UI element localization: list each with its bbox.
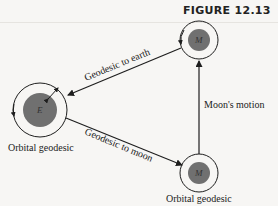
earth-caption: Orbital geodesic (8, 142, 74, 153)
moon-motion-label: Moon's motion (204, 99, 264, 110)
orbit-arrow-icon (13, 104, 14, 116)
radius-arrow-icon (48, 88, 58, 99)
diagram-canvas: E Orbital geodesic M M Orbital geodesic … (0, 0, 278, 206)
moon-bottom-body: M (180, 154, 218, 192)
moon-bottom-symbol: M (194, 168, 203, 178)
earth-body: E (13, 83, 67, 137)
figure-root: FIGURE 12.13 E Orbital geodesic M (0, 0, 278, 206)
moon-top-symbol: M (194, 35, 203, 45)
moon-top-body: M (180, 21, 218, 59)
earth-symbol: E (36, 105, 43, 115)
geodesic-to-moon-label: Geodesic to moon (83, 126, 154, 164)
moon-bottom-caption: Orbital geodesic (166, 193, 232, 204)
